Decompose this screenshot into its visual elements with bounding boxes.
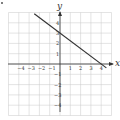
y-tick-label: 4: [56, 20, 59, 26]
y-tick-label: 1: [56, 51, 59, 57]
x-tick-label: 2: [79, 65, 82, 71]
x-tick-label: −1: [48, 65, 55, 71]
y-tick-label: −2: [54, 82, 61, 88]
y-axis-arrow-icon: [58, 11, 62, 16]
x-tick-label: −2: [38, 65, 45, 71]
y-tick-label: −4: [54, 102, 61, 108]
x-tick-label: 1: [69, 65, 72, 71]
y-tick-label: −1: [54, 71, 61, 77]
y-axis-label: y: [56, 1, 63, 11]
bullet-mark: [1, 2, 3, 4]
x-tick-label: −4: [17, 65, 24, 71]
x-tick-label: 3: [89, 65, 92, 71]
coordinate-plane: x y −4−3−2−112344321−1−2−3−4: [0, 0, 120, 120]
y-tick-label: 2: [56, 40, 59, 46]
y-tick-label: −3: [54, 92, 61, 98]
x-tick-label: −3: [28, 65, 35, 71]
x-axis-label: x: [115, 58, 120, 68]
